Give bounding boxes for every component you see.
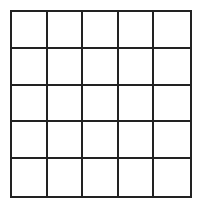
grid-cell: [154, 122, 190, 159]
grid-cell: [119, 86, 155, 123]
grid-cell: [83, 159, 119, 196]
grid-cell: [154, 49, 190, 86]
grid-cell: [83, 12, 119, 49]
grid-cell: [12, 49, 48, 86]
grid-cell: [119, 12, 155, 49]
grid-cell: [48, 86, 84, 123]
grid-cell: [83, 49, 119, 86]
grid-cell: [12, 159, 48, 196]
grid-cell: [119, 159, 155, 196]
grid-cell: [154, 159, 190, 196]
grid-cell: [12, 12, 48, 49]
grid-cell: [12, 122, 48, 159]
grid-container: [10, 10, 192, 198]
grid-cell: [83, 86, 119, 123]
grid-cell: [83, 122, 119, 159]
grid-cell: [48, 49, 84, 86]
grid-cell: [154, 12, 190, 49]
grid-cell: [154, 86, 190, 123]
grid-cell: [48, 12, 84, 49]
grid-cell: [119, 122, 155, 159]
grid-cell: [12, 86, 48, 123]
empty-grid: [10, 10, 192, 198]
grid-cell: [48, 159, 84, 196]
grid-cell: [119, 49, 155, 86]
grid-cell: [48, 122, 84, 159]
